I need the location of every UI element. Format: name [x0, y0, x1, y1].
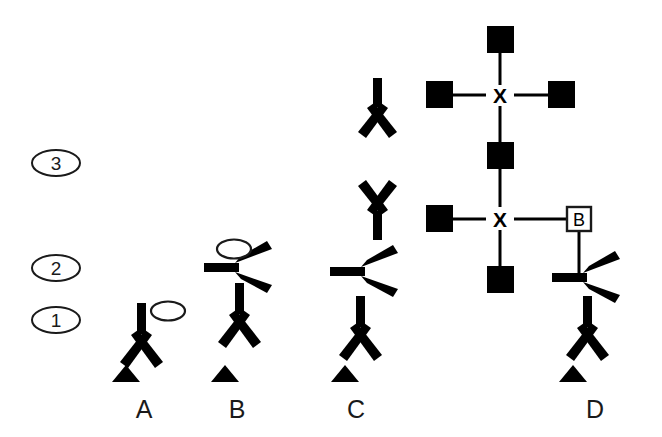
panel-d-branch-lower	[566, 296, 609, 361]
y-branch-stem	[373, 78, 382, 107]
rotated-y-stem	[552, 273, 587, 282]
panel-a-ellipse-marker	[151, 302, 185, 321]
panel-a-triangle-marker	[112, 365, 140, 382]
panel-a-figure	[112, 302, 185, 383]
panel-c-branch-4	[358, 78, 397, 138]
panel-d-cross-upper: X	[426, 26, 575, 169]
stage-label-group: 3 2 1	[32, 150, 80, 333]
rotated-y-stem	[330, 267, 365, 276]
stage-label-2: 2	[32, 255, 80, 281]
cross-center-label-lower: X	[493, 208, 507, 231]
panel-d-branch-upper	[552, 251, 620, 303]
cross-center-label-upper: X	[493, 84, 507, 107]
filled-square-node-right	[548, 81, 575, 108]
panel-label-a: A	[136, 395, 153, 423]
y-branch-stem	[235, 283, 244, 314]
stage-3-label: 3	[51, 153, 62, 174]
filled-square-node-left	[426, 81, 453, 108]
stage-1-label: 1	[51, 310, 62, 331]
diagram-canvas: 3 2 1	[0, 0, 662, 437]
panel-c-branch-2	[330, 245, 398, 297]
panel-label-b: B	[229, 395, 246, 423]
panel-d-figure: X X B	[426, 26, 620, 382]
filled-square-node-bottom	[487, 142, 514, 169]
y-branch-stem	[583, 296, 592, 327]
rotated-y-arm-up	[361, 245, 398, 267]
panel-b-triangle-marker	[211, 365, 239, 382]
panel-d-triangle-marker	[559, 365, 587, 382]
panel-label-d: D	[586, 395, 604, 423]
panel-c-branch-3	[358, 180, 397, 240]
y-branch-stem	[356, 296, 365, 327]
panel-c-triangle-marker	[331, 365, 359, 382]
panel-d-cross-lower: X	[426, 205, 567, 293]
panel-b-ellipse-marker	[217, 240, 251, 259]
filled-square-node-top	[487, 26, 514, 53]
rotated-y-arm-down	[361, 276, 398, 297]
y-branch-stem	[137, 303, 146, 334]
panel-label-group: A B C D	[136, 395, 604, 423]
panel-label-c: C	[347, 395, 365, 423]
stage-2-label: 2	[51, 258, 62, 279]
inverted-y-stem	[373, 211, 382, 240]
diagram-svg: 3 2 1	[0, 0, 662, 437]
panel-b-figure	[204, 240, 272, 383]
rotated-y-stem	[204, 263, 239, 272]
boxed-node-label: B	[573, 210, 585, 230]
boxed-node-b: B	[567, 207, 591, 231]
filled-square-node-left	[426, 205, 453, 232]
panel-b-branch-lower	[218, 283, 261, 348]
stage-label-3: 3	[32, 150, 80, 176]
panel-c-branch-1	[339, 296, 382, 361]
stage-label-1: 1	[32, 307, 80, 333]
panel-c-figure	[330, 78, 398, 382]
rotated-y-arm-up	[583, 251, 620, 273]
filled-square-node-bottom	[487, 266, 514, 293]
